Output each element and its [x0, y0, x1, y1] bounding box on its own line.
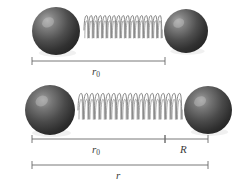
dimension-r0-equilibrium — [32, 57, 165, 65]
diagram-canvas — [0, 0, 242, 182]
atom-sphere-icon — [184, 86, 232, 134]
sphere-stretched-left-atom — [25, 85, 75, 137]
sphere-stretched-right-atom — [184, 86, 232, 136]
sphere-equilibrium-left-atom — [32, 7, 80, 57]
label-subscript: 0 — [96, 70, 100, 79]
dimension-r-total — [32, 161, 208, 169]
atom-sphere-icon — [164, 9, 208, 53]
dimension-r-total-label: r — [116, 170, 120, 181]
dimension-r0-equilibrium-label: r0 — [92, 66, 100, 77]
dimension-r0-stretched-label: r0 — [92, 144, 100, 155]
spring-stretched — [78, 93, 182, 119]
sphere-equilibrium-right-atom — [164, 9, 208, 55]
atom-sphere-icon — [25, 85, 75, 135]
label-symbol: R — [180, 143, 187, 155]
label-subscript: 0 — [96, 148, 100, 157]
dimension-R-label: R — [180, 144, 187, 155]
physics-spring-diagram: r0r0Rr — [0, 0, 242, 182]
coil-spring-icon-inner — [85, 21, 161, 38]
label-symbol: r — [116, 169, 120, 181]
atom-sphere-icon — [32, 7, 80, 55]
dimension-R — [165, 135, 208, 143]
coil-spring-icon — [84, 16, 162, 38]
spring-equilibrium — [84, 16, 162, 38]
